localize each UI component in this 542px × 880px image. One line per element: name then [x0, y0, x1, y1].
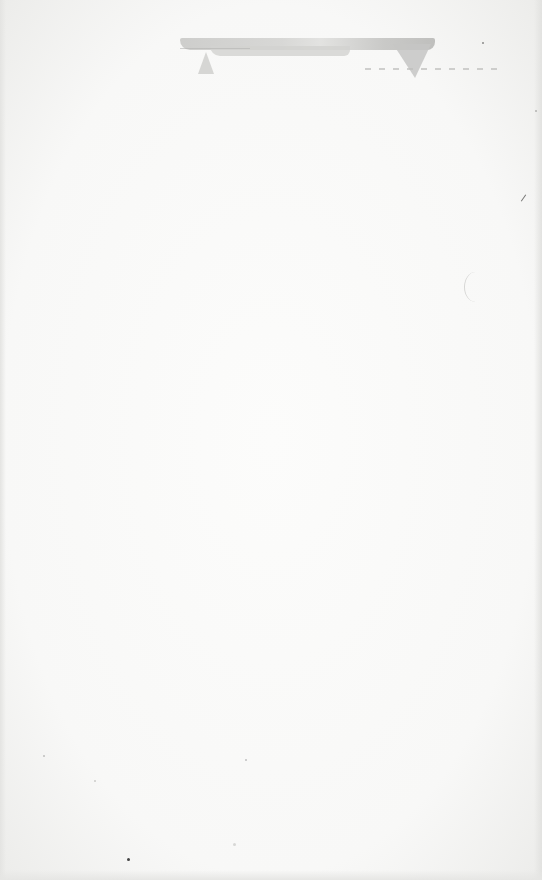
scan-edge-shadow-bottom — [0, 870, 542, 880]
scan-artifact-wedge — [393, 44, 431, 78]
speck — [233, 843, 236, 846]
scan-edge-shadow-left — [0, 0, 6, 880]
speck — [535, 110, 537, 112]
faint-arc-mark — [464, 272, 487, 302]
faint-rule-line — [180, 48, 250, 49]
scan-edge-shadow-right — [534, 0, 542, 880]
faint-dashed-line — [365, 68, 505, 70]
speck — [43, 755, 45, 757]
speck — [127, 858, 130, 861]
scan-artifact-spike — [198, 52, 214, 74]
speck — [482, 42, 484, 44]
speck — [245, 759, 247, 761]
blank-scanned-page — [0, 0, 542, 880]
speck — [94, 780, 96, 782]
pen-tick-mark — [521, 194, 526, 201]
